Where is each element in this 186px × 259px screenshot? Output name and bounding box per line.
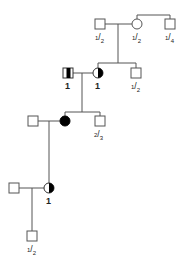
risk-label: 1/2: [27, 244, 37, 256]
risk-label: 1: [95, 81, 100, 91]
risk-label: 1/2: [131, 81, 141, 93]
male-symbol: [131, 68, 141, 78]
male-carrier-symbol: [63, 68, 73, 78]
risk-label: 1: [65, 81, 70, 91]
male-symbol: [28, 116, 38, 126]
risk-label: 1: [46, 196, 51, 206]
male-symbol: [27, 231, 37, 241]
female-half-affected-symbol: [44, 183, 54, 193]
male-symbol: [9, 183, 19, 193]
risk-label: 1/2: [95, 32, 105, 44]
risk-label: 2/3: [94, 129, 104, 141]
female-symbol: [132, 19, 142, 29]
risk-label: 1/4: [165, 32, 175, 44]
male-symbol: [95, 116, 105, 126]
female-half-affected-symbol: [93, 68, 103, 78]
pedigree-chart: 1/2 1/2 1/4 1 1 1/2 2/3 1 1/2: [0, 0, 186, 259]
male-symbol: [95, 19, 105, 29]
male-symbol: [165, 19, 175, 29]
female-affected-symbol: [60, 116, 70, 126]
risk-label: 1/2: [132, 32, 142, 44]
